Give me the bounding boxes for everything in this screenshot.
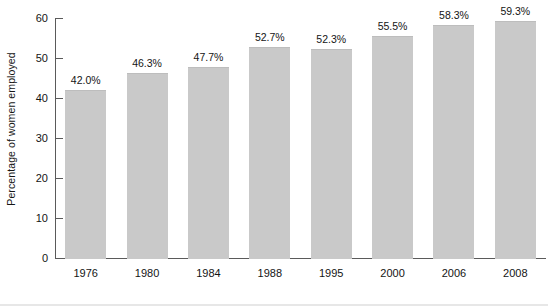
bar	[188, 67, 229, 259]
y-axis-tick-label: 10	[2, 213, 48, 224]
y-axis-tick-label: 40	[2, 93, 48, 104]
y-axis-tick	[56, 178, 63, 179]
y-axis-tick	[56, 98, 63, 99]
y-axis-tick	[56, 138, 63, 139]
bar-value-label: 46.3%	[117, 58, 177, 69]
x-axis-tick-label: 2000	[363, 268, 423, 279]
x-axis-tick-label: 1980	[117, 268, 177, 279]
y-axis-tick-label: 20	[2, 173, 48, 184]
x-axis-tick-label: 1984	[178, 268, 238, 279]
bar-value-label: 47.7%	[178, 52, 238, 63]
x-axis-tick-label: 1988	[240, 268, 300, 279]
bar-value-label: 59.3%	[485, 6, 545, 17]
bar-value-label: 52.3%	[301, 34, 361, 45]
bar	[495, 21, 536, 259]
bar	[433, 25, 474, 259]
bar-chart-figure: Percentage of women employed 01020304050…	[0, 0, 548, 306]
x-axis-tick-label: 2008	[485, 268, 545, 279]
bar-value-label: 52.7%	[240, 32, 300, 43]
bar	[249, 47, 290, 259]
y-axis-tick-label: 60	[2, 13, 48, 24]
bar	[65, 90, 106, 259]
bar	[127, 73, 168, 259]
bar	[372, 36, 413, 259]
y-axis-tick-label: 50	[2, 53, 48, 64]
y-axis-tick	[56, 18, 63, 19]
y-axis-tick-label: 30	[2, 133, 48, 144]
bar-value-label: 58.3%	[424, 10, 484, 21]
bar	[311, 49, 352, 259]
x-axis-tick-label: 2006	[424, 268, 484, 279]
x-axis-tick-label: 1976	[56, 268, 116, 279]
y-axis-tick-label: 0	[2, 253, 48, 264]
x-axis-tick-label: 1995	[301, 268, 361, 279]
bar-value-label: 42.0%	[56, 75, 116, 86]
y-axis-tick	[56, 218, 63, 219]
bar-value-label: 55.5%	[363, 21, 423, 32]
y-axis-tick	[56, 58, 63, 59]
